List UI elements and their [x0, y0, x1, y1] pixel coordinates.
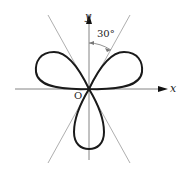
x-axis-arrow — [158, 86, 168, 92]
origin-label: O — [74, 90, 82, 101]
rose-curve-diagram — [0, 0, 184, 175]
petal-upper-left — [36, 52, 89, 89]
angle-arrow-left — [89, 41, 94, 45]
x-axis-label: x — [170, 82, 176, 95]
petal-upper-right — [89, 52, 142, 89]
y-axis-label: y — [85, 10, 91, 23]
angle-label: 30° — [97, 28, 115, 39]
